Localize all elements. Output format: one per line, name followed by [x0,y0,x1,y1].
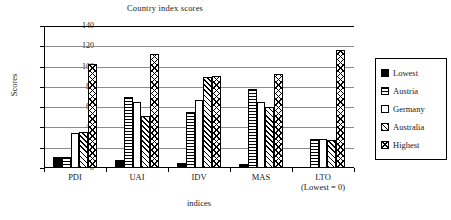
chart-legend: LowestAustriaGermanyAustraliaHighest [375,58,447,160]
legend-label: Australia [393,123,424,132]
x-group-label-text: MAS [252,172,270,182]
bar-idv-lowest [177,163,186,168]
bar-lto-australia [327,140,336,168]
legend-label: Austria [393,87,418,96]
bar-pdi-germany [71,133,80,169]
bar-mas-lowest [239,164,248,168]
legend-item-lowest: Lowest [381,64,446,82]
bar-mas-austria [248,89,257,168]
bar-uai-lowest [115,160,124,168]
bar-pdi-highest [88,64,97,168]
x-group-sublabel: (Lowest = 0) [283,182,363,192]
y-axis-title: Scores [9,55,19,115]
x-group-label-text: IDV [191,172,206,182]
bar-mas-highest [274,74,283,168]
legend-item-highest: Highest [381,136,446,154]
legend-item-germany: Germany [381,100,446,118]
x-group-label-lto: LTO(Lowest = 0) [283,172,363,192]
bar-lto-highest [336,50,345,168]
bars-layer [44,26,354,168]
legend-label: Highest [393,141,419,150]
bar-mas-germany [257,102,266,168]
bar-pdi-lowest [53,157,62,168]
bar-pdi-austria [62,157,71,168]
x-group-label-text: LTO [315,172,331,182]
bar-idv-australia [203,77,212,168]
bar-idv-highest [212,76,221,168]
legend-swatch-highest-icon [381,141,389,149]
legend-swatch-australia-icon [381,123,389,131]
bar-lto-austria [310,139,319,168]
bar-uai-austria [124,97,133,168]
x-axis-title: indices [44,198,354,208]
bar-pdi-australia [79,132,88,169]
legend-item-austria: Austria [381,82,446,100]
legend-item-australia: Australia [381,118,446,136]
bar-uai-australia [141,116,150,168]
legend-swatch-austria-icon [381,87,389,95]
bar-uai-highest [150,54,159,168]
legend-label: Lowest [393,69,418,78]
chart-title: Country index scores [0,3,330,13]
bar-uai-germany [133,102,142,168]
bar-lto-germany [319,139,328,168]
bar-mas-australia [265,107,274,168]
legend-swatch-germany-icon [381,105,389,113]
bar-idv-austria [186,112,195,168]
x-group-label-text: PDI [68,172,82,182]
chart-container: Country index scores Scores 020406080100… [0,0,451,220]
legend-label: Germany [393,105,425,114]
x-group-label-text: UAI [129,172,144,182]
legend-swatch-lowest-icon [381,69,389,77]
bar-idv-germany [195,100,204,168]
